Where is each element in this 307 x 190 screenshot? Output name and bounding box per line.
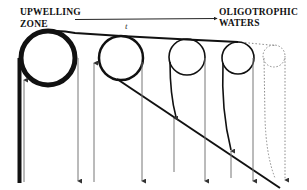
upwelling-zone-label-line1: UPWELLING [20, 7, 81, 17]
eddy-5-descent-dotted-left [264, 58, 275, 178]
eddy-circle-4 [222, 42, 254, 74]
eddy-circle-5-dotted [263, 45, 285, 67]
eddy-circle-2 [99, 36, 143, 80]
filament-top-boundary [48, 31, 238, 42]
upwelling-zone-label-line2: ZONE [20, 19, 48, 29]
oligotrophic-waters-label-line2: WATERS [219, 18, 260, 28]
time-label: t [125, 21, 128, 31]
time-arrow [75, 19, 217, 20]
oligotrophic-waters-label-line1: OLIGOTROPHIC [219, 7, 298, 17]
eddy-circle-3 [169, 39, 205, 75]
eddy-circle-1 [21, 31, 75, 85]
upwelling-filament-diagram: UPWELLING ZONE OLIGOTROPHIC WATERS t [0, 0, 307, 190]
eddy-4-descent-curve [223, 63, 231, 150]
nutricline-diagonal [117, 79, 280, 188]
